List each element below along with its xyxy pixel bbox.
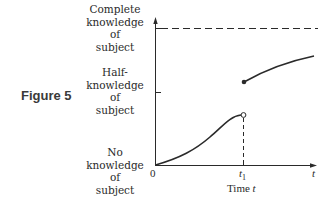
curve-before-t1 xyxy=(156,115,242,165)
curve-after-t1 xyxy=(244,56,314,82)
x-origin-label: 0 xyxy=(150,167,156,179)
y-axis-arrow-icon xyxy=(153,17,157,24)
open-circle-marker xyxy=(241,113,246,118)
filled-dot-marker xyxy=(242,80,247,85)
knowledge-curve-diagram xyxy=(0,0,331,201)
x-t1-label: t1 xyxy=(239,167,246,182)
x-axis-title: Time t xyxy=(227,182,256,194)
x-end-label: t xyxy=(312,167,315,179)
